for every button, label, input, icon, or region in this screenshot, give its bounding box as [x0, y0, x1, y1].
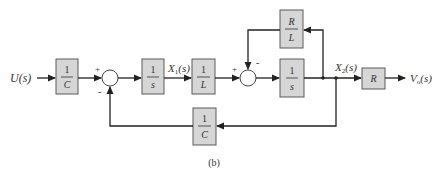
block-1-over-l: 1 L [192, 59, 215, 94]
svg-text:1: 1 [201, 64, 206, 75]
svg-text:+: + [232, 64, 237, 74]
block-1-over-c-feedback: 1 C [193, 108, 216, 145]
svg-text:R: R [369, 73, 376, 84]
svg-text:1: 1 [65, 64, 70, 75]
signal-x2-label: X2(s) [334, 61, 357, 75]
block-1-over-c: 1 C [56, 59, 78, 94]
input-label: U(s) [10, 71, 31, 85]
svg-text:-: - [98, 86, 101, 97]
block-1-over-s-first: 1 s [142, 59, 164, 94]
block-r: R [362, 68, 385, 89]
block-1-over-s-second: 1 s [280, 59, 304, 97]
block-diagram: U(s) 1 C + - 1 s X1(s) 1 L + - [0, 0, 438, 176]
inner-feedback-down [248, 30, 280, 69]
figure-caption: (b) [208, 157, 220, 169]
summing-junction-2: + - [232, 57, 259, 86]
svg-text:L: L [200, 79, 207, 90]
svg-text:1: 1 [151, 64, 156, 75]
svg-text:-: - [256, 57, 259, 68]
svg-text:s: s [290, 81, 294, 92]
svg-text:1: 1 [290, 65, 295, 76]
signal-x1-label: X1(s) [167, 62, 190, 76]
block-r-over-l: R L [280, 10, 303, 48]
svg-text:s: s [151, 79, 155, 90]
summing-junction-1: + - [95, 64, 118, 97]
svg-text:+: + [95, 64, 100, 74]
svg-text:C: C [201, 129, 208, 140]
output-label: Vo(s) [410, 72, 432, 86]
svg-text:L: L [288, 32, 295, 43]
svg-text:R: R [287, 16, 294, 27]
svg-text:1: 1 [202, 113, 207, 124]
outer-feedback-right [217, 78, 336, 126]
inner-feedback-up [304, 30, 323, 78]
svg-text:C: C [64, 79, 71, 90]
